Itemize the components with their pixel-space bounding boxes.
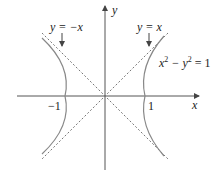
x-axis-label: x — [191, 98, 198, 112]
tick-label-neg-one: −1 — [48, 99, 61, 113]
asymptote-label-neg-x: y = −x — [49, 20, 84, 34]
hyperbola-diagram: y x −1 1 y = −x y = x x2 − y2 = 1 — [0, 0, 218, 177]
asymptote-label-x: y = x — [136, 20, 162, 34]
y-axis-label: y — [111, 3, 118, 17]
curve-equation-label: x2 − y2 = 1 — [158, 55, 211, 70]
tick-label-one: 1 — [148, 99, 154, 113]
